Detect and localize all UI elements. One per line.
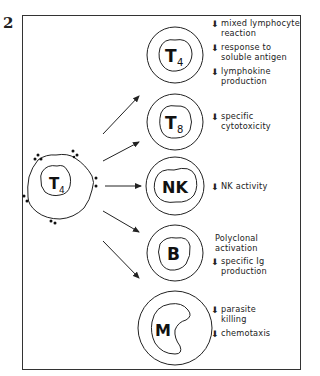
down-arrow-icon: ⬇ <box>211 330 219 339</box>
svg-text:4: 4 <box>177 57 183 68</box>
effect-specific-cytotoxicity: ⬇ specific cytotoxicity <box>213 112 271 131</box>
svg-text:B: B <box>167 244 180 264</box>
svg-text:T: T <box>165 46 177 66</box>
arrow-to-t4 <box>103 96 139 134</box>
down-arrow-icon: ⬇ <box>211 68 219 77</box>
effect-chemotaxis: ⬇ chemotaxis <box>213 329 270 339</box>
target-macrophage-cell: M <box>138 291 212 365</box>
svg-text:NK: NK <box>162 178 188 197</box>
effect-specific-ig-production: ⬇ specific Ig production <box>213 257 267 276</box>
target-t8-cell: T 8 <box>147 94 203 150</box>
target-b-cell: B <box>147 225 203 281</box>
effect-parasite-killing: ⬇ parasite killing <box>213 305 256 324</box>
arrow-to-m <box>103 241 139 278</box>
effect-nk-activity: ⬇ NK activity <box>213 182 267 192</box>
effect-polyclonal-activation: Polyclonal activation <box>215 234 258 253</box>
arrow-to-b <box>103 211 139 232</box>
target-nk-cell: NK <box>146 157 204 215</box>
svg-text:8: 8 <box>177 124 183 135</box>
down-arrow-icon: ⬇ <box>211 306 219 315</box>
effect-response-to-soluble-antigen: ⬇ response to soluble antigen <box>213 43 287 62</box>
svg-text:M: M <box>155 321 171 340</box>
down-arrow-icon: ⬇ <box>211 258 219 267</box>
source-t4-cell: T 4 <box>23 150 98 225</box>
down-arrow-icon: ⬇ <box>211 113 219 122</box>
down-arrow-icon: ⬇ <box>211 183 219 192</box>
down-arrow-icon: ⬇ <box>211 44 219 53</box>
differentiation-arrows <box>103 96 141 278</box>
effect-mixed-lymphocyte-reaction: ⬇ mixed lymphocyte reaction <box>213 19 300 38</box>
effect-lymphokine-production: ⬇ lymphokine production <box>213 67 271 86</box>
svg-text:T: T <box>165 113 177 133</box>
source-cell-subscript: 4 <box>59 185 65 195</box>
down-arrow-icon: ⬇ <box>211 20 219 29</box>
target-t4-cell: T 4 <box>147 27 203 83</box>
arrow-to-t8 <box>103 142 139 161</box>
